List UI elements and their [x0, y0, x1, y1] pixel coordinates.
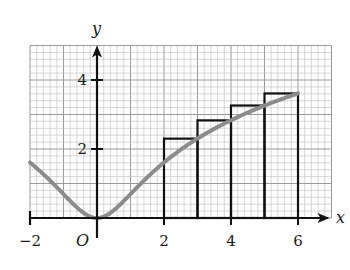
sum-rectangle: [231, 106, 265, 218]
graph-paper-grid: [30, 46, 332, 219]
y-axis-label: y: [91, 19, 102, 38]
axis-ticks: −224624: [19, 71, 303, 250]
x-tick-label: 6: [293, 232, 303, 250]
x-tick-label: −2: [19, 232, 41, 250]
y-tick-label: 4: [77, 71, 87, 89]
origin-label: O: [76, 231, 89, 250]
y-tick-label: 2: [77, 140, 87, 158]
x-tick-label: 2: [159, 232, 169, 250]
x-axis-label: x: [336, 208, 345, 227]
x-tick-label: 4: [226, 232, 236, 250]
chart-figure: −224624 x y O: [0, 0, 350, 270]
